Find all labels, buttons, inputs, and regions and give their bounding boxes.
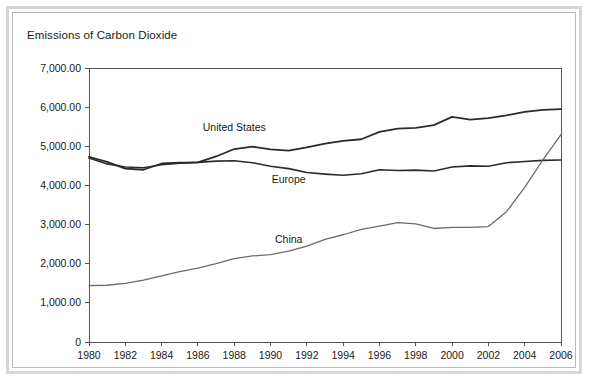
x-tick-label: 1982 xyxy=(114,349,138,361)
x-tick-label: 1986 xyxy=(186,349,210,361)
x-tick-label: 1980 xyxy=(77,349,101,361)
y-tick-label: 5,000.00 xyxy=(40,140,81,152)
series-inline-labels: United StatesEuropeChina xyxy=(203,121,306,245)
y-tick-label: 2,000.00 xyxy=(40,257,81,269)
y-tick-label: 7,000.00 xyxy=(40,62,81,74)
x-tick-label: 1992 xyxy=(295,349,319,361)
series-line-china xyxy=(89,135,561,286)
x-tick-label: 1984 xyxy=(150,349,174,361)
series-label-europe: Europe xyxy=(272,173,306,185)
x-tick-label: 1996 xyxy=(368,349,392,361)
x-tick-label: 2006 xyxy=(549,349,573,361)
x-tick-label: 1988 xyxy=(223,349,247,361)
series-label-china: China xyxy=(275,233,303,245)
y-tick-label: 6,000.00 xyxy=(40,101,81,113)
series-lines xyxy=(89,109,561,286)
series-line-europe xyxy=(89,158,561,175)
figure-frame: Emissions of Carbon Dioxide 01,000.002,0… xyxy=(6,6,582,374)
line-chart-plot: 01,000.002,000.003,000.004,000.005,000.0… xyxy=(13,13,581,373)
x-tick-label: 2000 xyxy=(440,349,464,361)
axis-lines xyxy=(89,68,561,342)
x-tick-label: 2002 xyxy=(477,349,501,361)
x-tick-label: 2004 xyxy=(513,349,537,361)
y-tick-label: 4,000.00 xyxy=(40,179,81,191)
x-tick-label: 1998 xyxy=(404,349,428,361)
figure-inner-border: Emissions of Carbon Dioxide 01,000.002,0… xyxy=(12,12,576,368)
x-tick-label: 1994 xyxy=(331,349,355,361)
series-line-united-states xyxy=(89,109,561,170)
y-tick-label: 1,000.00 xyxy=(40,296,81,308)
x-tick-label: 1990 xyxy=(259,349,283,361)
y-tick-label: 0 xyxy=(75,336,81,348)
y-axis-tick-labels: 01,000.002,000.003,000.004,000.005,000.0… xyxy=(40,62,81,348)
series-label-united-states: United States xyxy=(203,121,266,133)
y-tick-label: 3,000.00 xyxy=(40,218,81,230)
x-axis-tick-labels: 1980198219841986198819901992199419961998… xyxy=(77,349,573,361)
axis-tick-marks xyxy=(85,68,561,346)
